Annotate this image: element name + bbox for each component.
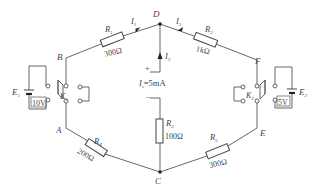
labels: D B F A E C R1 300Ω R2 1kΩ R3 100Ω R4 20…: [11, 9, 308, 186]
k2-label: K2: [245, 91, 254, 101]
r4-symbol: R4: [93, 136, 102, 147]
resistor-r3: [156, 119, 163, 143]
arrow-i3-icon: [158, 52, 163, 59]
r2-symbol: R2: [204, 24, 213, 35]
node-a-label: A: [55, 125, 62, 135]
junction-c: [158, 170, 162, 174]
current-source-label: Is=5mA: [138, 78, 166, 89]
r3-symbol: R3: [165, 118, 174, 129]
current-source-minus: −: [146, 93, 151, 102]
switch-k2[interactable]: [234, 80, 277, 103]
e1-label: E1: [11, 87, 20, 98]
node-e-label: E: [259, 128, 266, 138]
e2-value: 5V: [278, 98, 288, 107]
resistor-r5: [206, 144, 230, 159]
i3-label: I3: [164, 51, 171, 62]
i1-label: I1: [130, 16, 136, 27]
k1-label: K1: [59, 92, 68, 102]
node-c-label: C: [155, 176, 162, 186]
e1-value: 10V: [32, 99, 46, 108]
junction-d: [158, 22, 162, 26]
circuit-diagram: D B F A E C R1 300Ω R2 1kΩ R3 100Ω R4 20…: [0, 0, 317, 195]
r5-symbol: R5: [209, 132, 218, 143]
r1-value: 300Ω: [103, 46, 122, 59]
node-f-label: F: [254, 56, 261, 66]
r3-value: 100Ω: [165, 132, 183, 141]
i2-label: I2: [175, 16, 182, 27]
node-b-label: B: [57, 52, 63, 62]
current-source-plus: +: [145, 64, 150, 73]
node-d-label: D: [152, 9, 160, 19]
e2-label: E2: [298, 87, 308, 98]
r5-value: 300Ω: [208, 157, 228, 170]
r2-value: 1kΩ: [195, 44, 211, 56]
r1-symbol: R1: [104, 24, 113, 35]
